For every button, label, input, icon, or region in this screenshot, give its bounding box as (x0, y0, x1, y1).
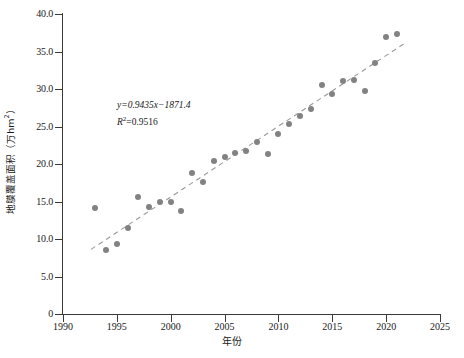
data-point (178, 208, 184, 214)
data-point (297, 113, 303, 119)
data-point (92, 205, 98, 211)
data-point (372, 60, 378, 66)
data-point (211, 158, 217, 164)
data-point (103, 247, 109, 253)
x-axis-title: 年份 (0, 336, 464, 347)
data-point (351, 77, 357, 83)
y-axis-title: 地膜覆盖面积（万hm2） (2, 100, 16, 218)
data-point (243, 148, 249, 154)
data-point (362, 88, 368, 94)
data-point (146, 204, 152, 210)
data-point (125, 225, 131, 231)
data-point (308, 106, 314, 112)
data-point (114, 241, 120, 247)
data-point (168, 199, 174, 205)
data-point (135, 194, 141, 200)
data-point (265, 151, 271, 157)
chart-figure: 05.010.015.020.025.030.035.040.0 1990199… (0, 0, 464, 358)
equation-text: y=0.9435x−1871.4 (117, 99, 191, 113)
data-point (319, 82, 325, 88)
data-point (340, 78, 346, 84)
r-squared-text: R2=0.9516 (117, 113, 191, 130)
data-point (329, 91, 335, 97)
regression-annotation: y=0.9435x−1871.4 R2=0.9516 (117, 99, 191, 129)
trendline (0, 0, 464, 358)
data-point (189, 170, 195, 176)
data-point (275, 131, 281, 137)
data-point (394, 31, 400, 37)
data-point (286, 121, 292, 127)
data-point (232, 150, 238, 156)
data-point (222, 154, 228, 160)
data-point (157, 199, 163, 205)
data-point (200, 179, 206, 185)
data-point (383, 34, 389, 40)
data-point (254, 139, 260, 145)
